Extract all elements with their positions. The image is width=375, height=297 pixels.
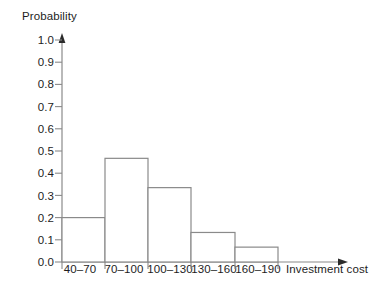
bar-130-160 xyxy=(191,232,235,262)
bar-40-70 xyxy=(62,218,105,262)
y-axis-arrow-icon xyxy=(59,33,66,43)
x-axis-arrow-icon xyxy=(338,259,348,266)
bar-100-130 xyxy=(148,188,191,262)
y-axis-ticks xyxy=(55,40,62,262)
x-axis-ticks xyxy=(62,262,278,269)
bar-160-190 xyxy=(235,247,278,262)
bars xyxy=(62,158,278,262)
bar-70-100 xyxy=(105,158,148,262)
histogram-chart: Probability Investment cost 1.0 0.9 0.8 … xyxy=(0,0,375,297)
